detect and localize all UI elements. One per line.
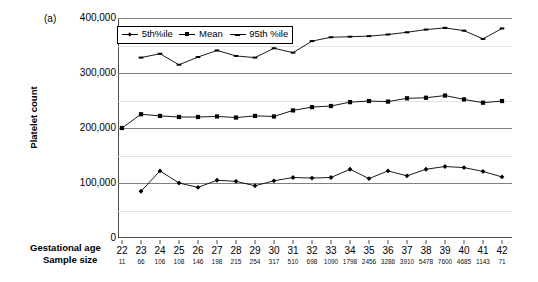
data-point-marker (386, 34, 391, 36)
x-tick-mark (255, 240, 256, 244)
data-point-marker (310, 105, 314, 109)
data-point-marker (310, 40, 315, 42)
data-point-marker (234, 55, 239, 57)
x-tick-label-gestational-age: 27 (211, 245, 222, 257)
data-point-marker (462, 30, 467, 32)
data-point-marker (443, 93, 447, 97)
x-axis-column: 341798 (343, 245, 357, 267)
data-point-marker (405, 96, 409, 100)
x-axis-column: 32698 (306, 245, 317, 267)
data-point-marker (443, 164, 448, 169)
x-tick-label-sample-size: 698 (306, 257, 317, 267)
x-axis-column: 29254 (249, 245, 260, 267)
x-tick-label-gestational-age: 38 (419, 245, 433, 257)
series-layer (118, 18, 512, 238)
series-line-5th-ile (141, 167, 502, 192)
x-tick-label-sample-size: 3910 (400, 257, 414, 267)
x-axis-column: 4271 (496, 245, 507, 267)
x-axis-column: 2211 (116, 245, 127, 267)
x-tick-label-gestational-age: 34 (343, 245, 357, 257)
x-tick-mark (160, 240, 161, 244)
data-point-marker (367, 99, 371, 103)
x-axis-column: 25108 (173, 245, 184, 267)
plot-area (118, 18, 512, 238)
x-tick-label-sample-size: 66 (135, 257, 146, 267)
y-tick-label: 200,000 (60, 123, 116, 133)
data-point-marker (386, 168, 391, 173)
data-point-marker (177, 115, 181, 119)
x-tick-label-sample-size: 71 (496, 257, 507, 267)
legend-item-mean: Mean (179, 28, 222, 40)
data-point-marker (177, 181, 182, 186)
data-point-marker (196, 185, 201, 190)
data-point-marker (234, 179, 239, 184)
data-point-marker (177, 64, 182, 66)
x-tick-label-sample-size: 1090 (324, 257, 338, 267)
data-point-marker (329, 104, 333, 108)
line-marker-diamond-icon (122, 30, 138, 39)
data-point-marker (215, 49, 220, 51)
x-tick-mark (122, 240, 123, 244)
y-axis-title: Platelet count (28, 63, 39, 173)
x-axis-labels: 2211236624106251082614627198282152925430… (118, 240, 512, 280)
data-point-marker (481, 101, 485, 105)
x-tick-label-gestational-age: 35 (362, 245, 376, 257)
data-point-marker (500, 175, 505, 180)
x-tick-mark (445, 240, 446, 244)
legend-item-95th: 95th %ile (230, 28, 289, 40)
x-axis-column: 385478 (419, 245, 433, 267)
x-tick-label-gestational-age: 28 (230, 245, 241, 257)
data-point-marker (158, 53, 163, 55)
x-tick-mark (198, 240, 199, 244)
x-tick-mark (236, 240, 237, 244)
data-point-marker (291, 52, 296, 54)
x-tick-label-sample-size: 198 (211, 257, 222, 267)
x-tick-label-gestational-age: 26 (192, 245, 203, 257)
x-axis-column: 30317 (268, 245, 279, 267)
x-tick-mark (312, 240, 313, 244)
x-tick-label-gestational-age: 24 (154, 245, 165, 257)
data-point-marker (310, 176, 315, 181)
x-tick-label-gestational-age: 30 (268, 245, 279, 257)
data-point-marker (196, 56, 201, 58)
data-point-marker (253, 114, 257, 118)
data-point-marker (253, 183, 258, 188)
x-tick-label-gestational-age: 36 (381, 245, 395, 257)
data-point-marker (139, 112, 143, 116)
data-point-marker (348, 36, 353, 38)
x-axis-column: 26146 (192, 245, 203, 267)
x-axis-column: 24106 (154, 245, 165, 267)
x-tick-label-sample-size: 5478 (419, 257, 433, 267)
data-point-marker (215, 114, 219, 118)
x-axis-column: 404685 (457, 245, 471, 267)
data-point-marker (348, 100, 352, 104)
data-point-marker (272, 114, 276, 118)
data-point-marker (367, 176, 372, 181)
x-tick-label-sample-size: 1798 (343, 257, 357, 267)
data-point-marker (215, 178, 220, 183)
data-point-marker (348, 167, 353, 172)
x-tick-label-sample-size: 215 (230, 257, 241, 267)
data-point-marker (272, 178, 277, 183)
chart-figure: (a) Platelet count 0100,000200,000300,00… (0, 0, 538, 282)
x-axis-column: 397600 (438, 245, 452, 267)
x-tick-label-gestational-age: 23 (135, 245, 146, 257)
x-axis-column: 27198 (211, 245, 222, 267)
x-tick-label-sample-size: 2456 (362, 257, 376, 267)
data-point-marker (158, 114, 162, 118)
x-axis-column: 2366 (135, 245, 146, 267)
x-tick-mark (293, 240, 294, 244)
x-tick-mark (274, 240, 275, 244)
x-tick-mark (217, 240, 218, 244)
x-tick-label-sample-size: 4685 (457, 257, 471, 267)
x-axis-title-gestational-age: Gestational age (30, 242, 101, 253)
data-point-marker (139, 57, 144, 59)
data-point-marker (424, 96, 428, 100)
x-tick-label-sample-size: 108 (173, 257, 184, 267)
x-axis-column: 363286 (381, 245, 395, 267)
data-point-marker (462, 165, 467, 170)
data-point-marker (386, 100, 390, 104)
x-tick-label-gestational-age: 25 (173, 245, 184, 257)
x-axis-column: 28215 (230, 245, 241, 267)
data-point-marker (481, 169, 486, 174)
